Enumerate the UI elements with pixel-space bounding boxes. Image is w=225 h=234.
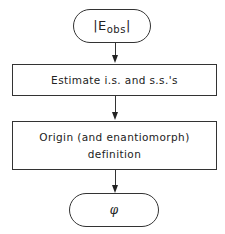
estimate-label: Estimate i.s. and s.s.'s: [51, 72, 178, 89]
end-terminator-phi: φ: [69, 193, 159, 227]
arrow-step1-to-step2: [115, 96, 116, 113]
start-terminator-eobs: |Eobs|: [73, 9, 151, 43]
arrowhead-icon: [112, 185, 118, 193]
phi-label: φ: [110, 203, 118, 217]
process-estimate-is-ss: Estimate i.s. and s.s.'s: [12, 64, 217, 96]
eobs-label: |Eobs|: [93, 18, 131, 35]
origin-label-line2: definition: [88, 146, 141, 163]
process-origin-definition: Origin (and enantiomorph) definition: [12, 121, 217, 170]
arrow-step2-to-end: [115, 170, 116, 185]
arrowhead-icon: [112, 112, 118, 120]
arrowhead-icon: [112, 55, 118, 63]
origin-label-line1: Origin (and enantiomorph): [39, 129, 189, 146]
